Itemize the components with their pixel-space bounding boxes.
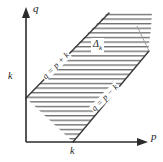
figure-container: q p k k Δk q = p + k q = p − k: [0, 0, 163, 162]
region-label-delta-k: Δk: [91, 38, 104, 53]
x-axis-tick-label-k: k: [70, 146, 74, 156]
x-axis-label: p: [151, 131, 157, 142]
y-axis-tick-label-k: k: [8, 71, 12, 81]
figure-canvas: [0, 0, 163, 162]
x-axis-arrow-icon: [137, 138, 148, 146]
region-label-subscript: k: [99, 44, 102, 52]
y-axis-label: q: [33, 3, 39, 14]
hatched-band-region: [0, 0, 163, 162]
y-axis-arrow-icon: [22, 7, 30, 18]
